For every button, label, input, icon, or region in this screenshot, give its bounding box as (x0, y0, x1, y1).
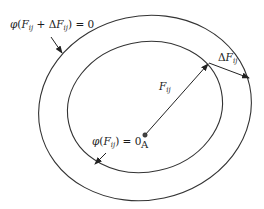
inner-label-pointer-arrow (95, 153, 106, 164)
equals-zero: ) = 0 (115, 135, 141, 147)
equals-zero: ) = 0 (68, 18, 94, 30)
f-symbol: F (56, 18, 63, 30)
point-a-marker (143, 133, 147, 137)
subscript: ij (233, 57, 237, 65)
point-a-label: A (141, 140, 148, 150)
outer-label-pointer-arrow (51, 37, 62, 53)
vector-delta-f-arrow (209, 63, 249, 78)
f-symbol: F (103, 135, 110, 147)
inner-yield-surface (55, 27, 235, 187)
plus-delta: + Δ (33, 18, 56, 30)
inner-surface-label: φ(Fij) = 0 (92, 136, 141, 149)
point-label: A (141, 139, 148, 150)
f-symbol: F (226, 51, 233, 63)
subscript: ij (166, 86, 170, 94)
delta-symbol: Δ (218, 51, 226, 63)
vector-delta-f-label: ΔFij (218, 52, 237, 65)
vector-f-arrow (145, 64, 208, 135)
f-symbol: F (21, 18, 28, 30)
vector-f-label: Fij (159, 81, 171, 94)
outer-surface-label: φ(Fij + ΔFij) = 0 (10, 19, 94, 32)
